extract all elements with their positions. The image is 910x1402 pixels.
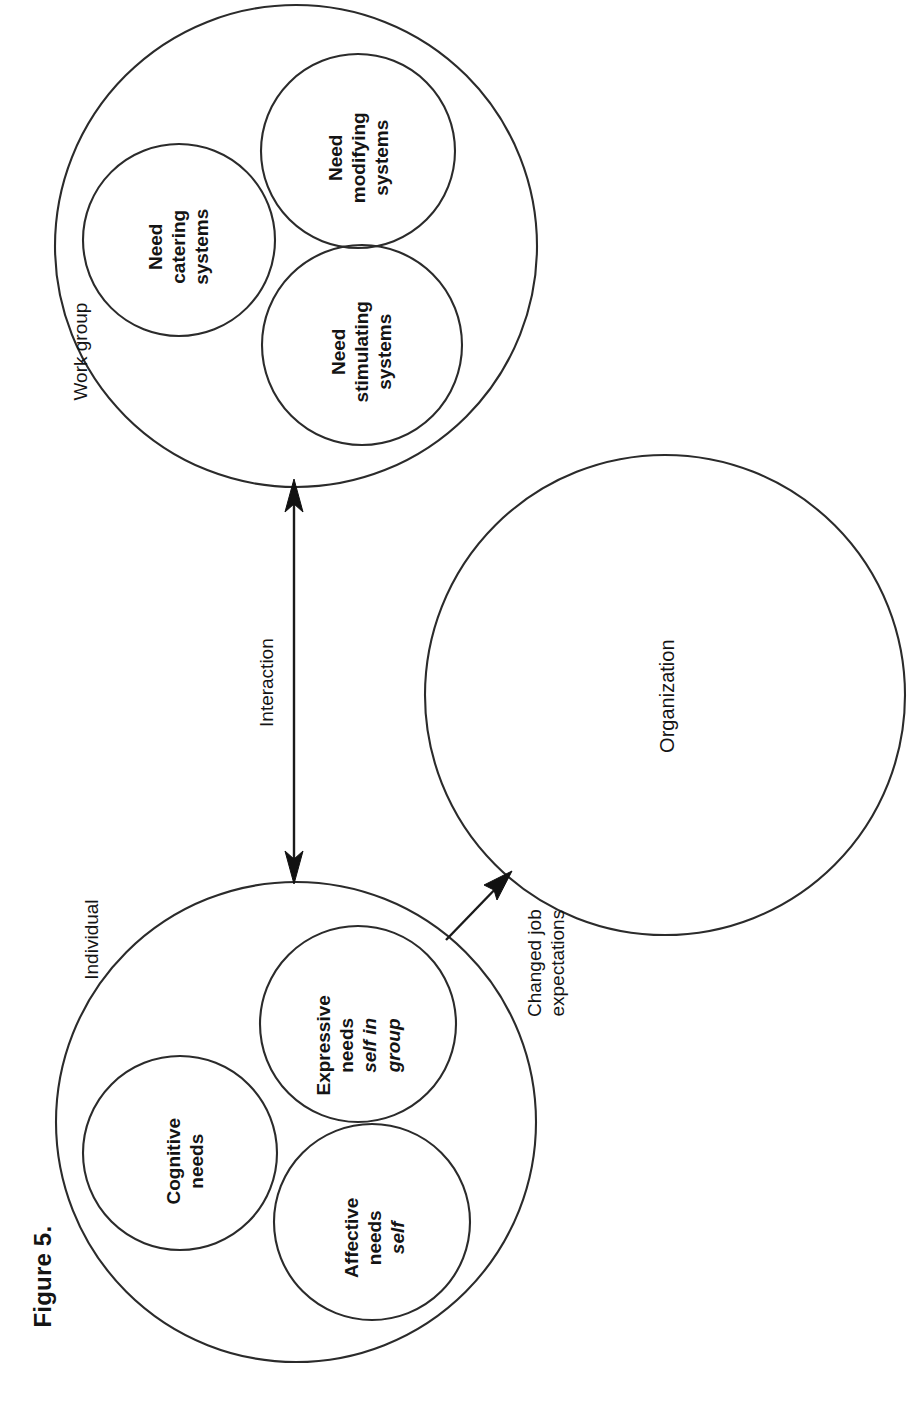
cognitive-needs-label: Cognitive needs: [162, 1108, 208, 1214]
affective-needs-label: Affective needs self: [340, 1188, 410, 1288]
cognitive-needs-line-1: Cognitive: [162, 1108, 185, 1214]
organization-label: Organization: [655, 636, 679, 756]
organization-label-text: Organization: [655, 636, 679, 756]
figure-caption: Figure 5.: [28, 1222, 57, 1332]
individual-label: Individual: [80, 889, 103, 991]
interaction-label: Interaction: [255, 627, 278, 739]
expressive-needs-line-4: group: [381, 989, 404, 1101]
need-catering-systems-label: Need catering systems: [144, 197, 214, 297]
affective-needs-line-2: needs: [363, 1188, 386, 1288]
need-stimulating-systems-label: Need stimulating systems: [327, 295, 397, 409]
need-modifying-systems-label: Need modifying systems: [324, 104, 394, 212]
need-modifying-line-1: Need: [324, 104, 347, 212]
expressive-needs-label: Expressive needs self in group: [312, 989, 405, 1101]
work-group-label: Work group: [69, 292, 92, 412]
changed-job-expectations-label: Changed job expectations: [523, 895, 569, 1031]
need-stimulating-line-2: stimulating: [350, 295, 373, 409]
figure-root: Figure 5. Work group Need catering syste…: [0, 0, 910, 1402]
expressive-needs-line-1: Expressive: [312, 989, 335, 1101]
expressive-needs-line-2: needs: [335, 989, 358, 1101]
expressive-needs-line-3: self in: [358, 989, 381, 1101]
need-catering-line-2: catering: [167, 197, 190, 297]
need-stimulating-line-1: Need: [327, 295, 350, 409]
need-modifying-line-3: systems: [371, 104, 394, 212]
interaction-label-text: Interaction: [255, 627, 278, 739]
work-group-label-text: Work group: [69, 292, 92, 412]
changed-job-line-1: Changed job: [523, 895, 546, 1031]
cognitive-needs-line-2: needs: [185, 1108, 208, 1214]
affective-needs-line-1: Affective: [340, 1188, 363, 1288]
need-modifying-line-2: modifying: [347, 104, 370, 212]
need-stimulating-line-3: systems: [374, 295, 397, 409]
individual-label-text: Individual: [80, 889, 103, 991]
need-catering-line-3: systems: [191, 197, 214, 297]
changed-job-line-2: expectations: [546, 895, 569, 1031]
individual-outer-circle[interactable]: [56, 882, 536, 1362]
figure-caption-text: Figure 5.: [28, 1222, 57, 1332]
affective-needs-line-3: self: [387, 1188, 410, 1288]
changed-job-expectations-arrow-line[interactable]: [446, 882, 502, 940]
need-catering-line-1: Need: [144, 197, 167, 297]
diagram-canvas: [0, 0, 910, 1402]
